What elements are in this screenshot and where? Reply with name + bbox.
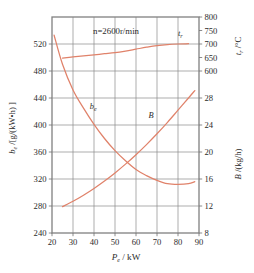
- tick-label-right-fuelflow: 16: [205, 174, 214, 184]
- tick-label-left: 360: [34, 147, 47, 157]
- tick-label-x: 60: [132, 237, 141, 247]
- tick-label-right-fuelflow: 20: [205, 147, 214, 157]
- chart-annotation: n=2600r/min: [93, 26, 140, 36]
- tick-label-x: 20: [48, 237, 57, 247]
- tick-label-right-fuelflow: 12: [205, 201, 214, 211]
- B-curve-label: B: [149, 111, 154, 120]
- tick-label-right-fuelflow: 28: [205, 93, 214, 103]
- tick-label-right-temperature: 600: [205, 66, 218, 76]
- chart-container: 2030405060708090 24028032036040044048052…: [0, 0, 254, 273]
- tick-label-right-temperature: 700: [205, 39, 218, 49]
- tick-label-x: 80: [174, 237, 183, 247]
- tick-label-right-temperature: 650: [205, 53, 218, 63]
- tick-label-left: 480: [34, 66, 47, 76]
- tick-label-right-fuelflow: 24: [205, 120, 214, 130]
- tick-label-left: 440: [34, 93, 47, 103]
- tick-label-right-temperature: 800: [205, 12, 218, 22]
- tick-label-left: 280: [34, 201, 47, 211]
- tick-label-left: 240: [34, 228, 47, 238]
- tick-label-x: 90: [195, 237, 204, 247]
- tick-label-left: 520: [34, 39, 47, 49]
- tick-label-x: 40: [90, 237, 99, 247]
- tick-label-x: 30: [69, 237, 78, 247]
- tick-label-x: 70: [153, 237, 162, 247]
- x-axis-title: Pe / kW: [111, 252, 141, 263]
- left-axis-title: be /[g/(kW•h) ]: [7, 102, 18, 154]
- tick-label-right-fuelflow: 8: [205, 228, 209, 238]
- right-bottom-axis-title: B /(kg/h): [233, 148, 243, 179]
- engine-performance-chart: 2030405060708090 24028032036040044048052…: [0, 0, 254, 273]
- tick-label-x: 50: [111, 237, 120, 247]
- tick-label-left: 320: [34, 174, 47, 184]
- tick-label-right-temperature: 750: [205, 26, 218, 36]
- tick-label-left: 400: [34, 120, 47, 130]
